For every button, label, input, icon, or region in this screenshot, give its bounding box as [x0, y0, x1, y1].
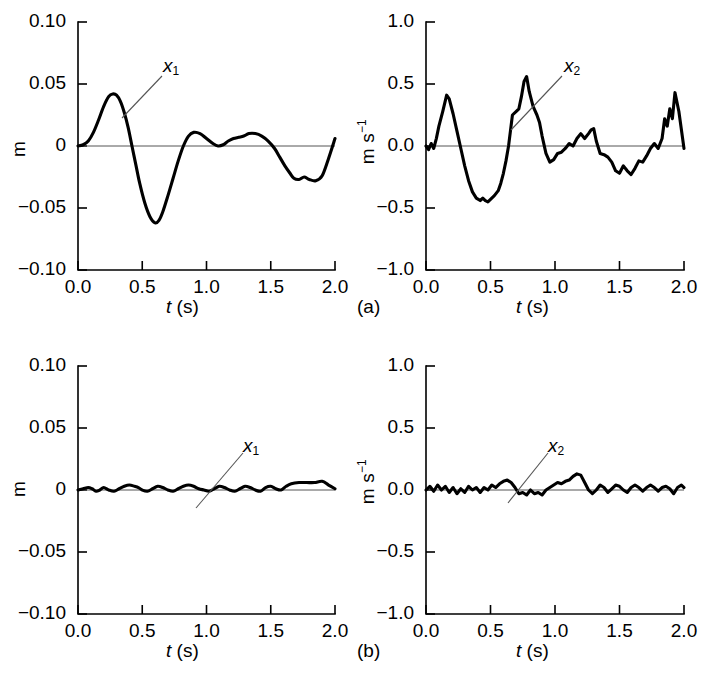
y-tick-label: 1.0	[348, 354, 414, 376]
x-tick-label: 0.5	[461, 276, 521, 298]
y-tick-label: 0.10	[0, 354, 66, 376]
plot-a-x1-curve-label: x1	[163, 55, 179, 77]
x-tick-label: 0.0	[48, 620, 108, 642]
plot-a-x1: m t (s) x1 0.100.050−0.05−0.100.00.51.01…	[0, 0, 348, 340]
data-trace-x1	[78, 94, 335, 223]
y-tick-label: 1.0	[348, 10, 414, 32]
y-tick-label: 0.05	[0, 416, 66, 438]
panel-a-label: (a)	[357, 296, 380, 318]
x-tick-label: 1.5	[590, 620, 650, 642]
x-tick-label: 1.0	[525, 276, 585, 298]
y-tick-label: 0.10	[0, 10, 66, 32]
y-tick-label: −0.5	[348, 196, 414, 218]
data-trace-x2	[426, 474, 684, 495]
y-tick-label: −0.5	[348, 540, 414, 562]
annotation-leader-line	[122, 76, 162, 118]
y-tick-label: −0.05	[0, 540, 66, 562]
plot-b-x2: m s−1 t (s) x2 (b) 1.00.50.0−0.5−1.00.00…	[348, 340, 697, 687]
x-tick-label: 1.5	[590, 276, 650, 298]
x-tick-label: 0.5	[112, 620, 172, 642]
x-tick-label: 0.0	[396, 276, 456, 298]
plot-b-x2-xlabel: t (s)	[516, 640, 549, 662]
x-tick-label: 2.0	[654, 276, 702, 298]
x-tick-label: 1.5	[241, 276, 301, 298]
x-tick-label: 0.0	[396, 620, 456, 642]
plot-b-x1-xlabel: t (s)	[166, 640, 199, 662]
y-tick-label: 0.05	[0, 72, 66, 94]
plot-a-x1-xlabel: t (s)	[166, 296, 199, 318]
x-tick-label: 0.5	[461, 620, 521, 642]
y-tick-label: 0	[0, 134, 66, 156]
y-tick-label: 0.5	[348, 72, 414, 94]
y-tick-label: 0.5	[348, 416, 414, 438]
plot-a-x2: m s−1 t (s) x2 (a) 1.00.50.0−0.5−1.00.00…	[348, 0, 697, 340]
x-tick-label: 2.0	[654, 620, 702, 642]
plot-b-x1-curve-label: x1	[243, 435, 259, 457]
plot-a-x2-curve-label: x2	[564, 55, 580, 77]
y-tick-label: 0	[0, 478, 66, 500]
x-tick-label: 1.5	[241, 620, 301, 642]
x-tick-label: 1.0	[177, 620, 237, 642]
panel-b-label: (b)	[357, 640, 380, 662]
plot-b-x1: m t (s) x1 0.100.050−0.05−0.100.00.51.01…	[0, 340, 348, 687]
annotation-leader-line	[196, 453, 243, 508]
plot-b-x2-curve-label: x2	[548, 435, 564, 457]
x-tick-label: 1.0	[177, 276, 237, 298]
plot-a-x2-xlabel: t (s)	[516, 296, 549, 318]
data-trace-x2	[426, 77, 684, 202]
x-tick-label: 1.0	[525, 620, 585, 642]
x-tick-label: 0.5	[112, 276, 172, 298]
x-tick-label: 0.0	[48, 276, 108, 298]
y-tick-label: −0.05	[0, 196, 66, 218]
y-tick-label: 0.0	[348, 478, 414, 500]
y-tick-label: 0.0	[348, 134, 414, 156]
